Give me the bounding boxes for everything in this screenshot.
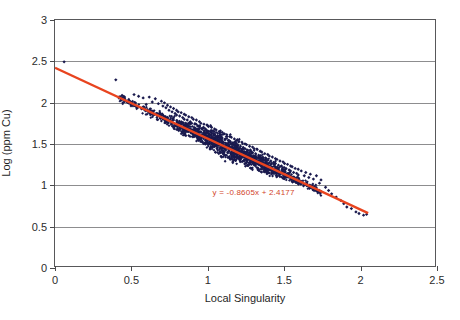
x-axis-tick [131, 266, 132, 271]
x-axis-tick-label: 2 [358, 274, 364, 286]
y-axis-title: Log (ppm Cu) [0, 109, 12, 176]
x-axis-tick [284, 266, 285, 271]
y-axis-tick-label: 3 [41, 14, 47, 26]
trendline-path [55, 68, 368, 213]
x-axis-tick-label: 1 [205, 274, 211, 286]
plot-area: 00.511.522.53 00.511.522.5 y = -0.8605x … [54, 19, 436, 267]
y-axis-tick-label: 0.5 [32, 221, 47, 233]
x-axis-tick-label: 0.5 [124, 274, 139, 286]
y-axis-tick-label: 1.5 [32, 138, 47, 150]
x-axis-tick-label: 0 [52, 274, 58, 286]
x-axis-tick [437, 266, 438, 271]
x-axis-title: Local Singularity [54, 292, 436, 304]
x-axis-tick [361, 266, 362, 271]
trendline-equation-label: y = -0.8605x + 2.4177 [213, 187, 295, 196]
trendline [55, 20, 435, 266]
x-axis-tick [55, 266, 56, 271]
x-axis-tick-label: 2.5 [429, 274, 444, 286]
y-axis-tick-label: 2.5 [32, 55, 47, 67]
y-axis-tick-label: 2 [41, 97, 47, 109]
y-axis-tick-label: 0 [41, 262, 47, 274]
x-axis-tick-label: 1.5 [277, 274, 292, 286]
y-axis-tick-label: 1 [41, 179, 47, 191]
x-axis-tick [208, 266, 209, 271]
scatter-chart: Log (ppm Cu) Local Singularity 00.511.52… [0, 0, 460, 320]
